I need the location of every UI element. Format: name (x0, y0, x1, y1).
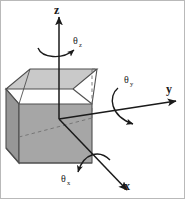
y-axis-label: y (166, 82, 172, 96)
theta-y-symbol: θ (124, 74, 129, 85)
z-axis-label: z (54, 3, 60, 17)
cube-front-face (19, 104, 92, 163)
figure-canvas: z y x θ z θ y θ x (0, 0, 185, 199)
rotation-axes-figure: z y x θ z θ y θ x (0, 0, 185, 199)
theta-z-symbol: θ (73, 35, 78, 46)
theta-z-subscript: z (79, 41, 82, 48)
x-axis-label: x (124, 179, 130, 193)
theta-x-symbol: θ (61, 173, 66, 184)
